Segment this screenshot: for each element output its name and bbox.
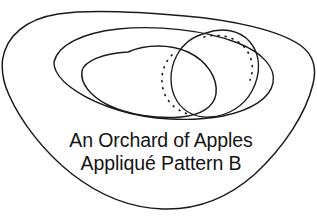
pattern-figure: An Orchard of Apples Appliqué Pattern B (0, 0, 317, 221)
right-apple-outline (171, 30, 259, 117)
caption-line-1: An Orchard of Apples (69, 129, 253, 151)
front-apple-outline (82, 46, 216, 118)
pattern-drawing: An Orchard of Apples Appliqué Pattern B (0, 0, 317, 221)
caption-line-2: Appliqué Pattern B (81, 152, 242, 174)
stitch-guide-dotted-line-lower (162, 55, 188, 114)
outer-blob-outline (2, 11, 314, 209)
